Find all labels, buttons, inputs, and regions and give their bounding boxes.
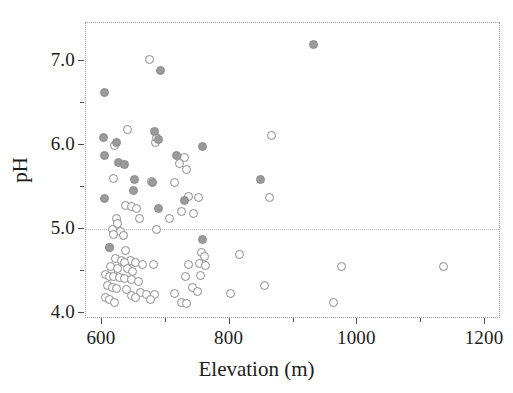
x-tick-label: 1200: [465, 327, 504, 349]
x-tick-label: 600: [86, 327, 115, 349]
x-tick-minor: [165, 318, 166, 322]
data-point-filled: [105, 243, 114, 252]
data-point-open: [196, 271, 205, 280]
data-point-open: [110, 298, 119, 307]
data-point-filled: [148, 178, 157, 187]
data-point-filled: [180, 196, 189, 205]
data-point-filled: [154, 204, 163, 213]
y-axis-title: pH: [8, 157, 33, 183]
data-point-open: [135, 214, 144, 223]
data-point-filled: [198, 235, 207, 244]
data-point-filled: [154, 135, 163, 144]
data-point-open: [235, 250, 244, 259]
y-tick-minor: [80, 186, 84, 187]
data-point-filled: [100, 151, 109, 160]
x-tick-minor: [293, 318, 294, 322]
y-tick-major: [78, 144, 84, 145]
data-point-open: [265, 193, 274, 202]
data-point-open: [132, 204, 141, 213]
data-point-open: [109, 174, 118, 183]
data-point-open: [123, 125, 132, 134]
data-point-filled: [156, 66, 165, 75]
data-point-filled: [172, 151, 181, 160]
data-point-open: [131, 293, 140, 302]
data-point-filled: [100, 88, 109, 97]
data-point-open: [329, 298, 338, 307]
data-point-open: [119, 231, 128, 240]
y-tick-minor: [80, 270, 84, 271]
data-point-open: [112, 284, 121, 293]
data-point-filled: [99, 133, 108, 142]
y-tick-minor: [80, 102, 84, 103]
data-point-open: [134, 277, 143, 286]
y-tick-label: 5.0: [37, 217, 75, 239]
y-tick-label: 4.0: [37, 301, 75, 323]
x-tick-minor: [420, 318, 421, 322]
data-point-open: [138, 260, 147, 269]
data-point-open: [194, 193, 203, 202]
data-point-filled: [256, 175, 265, 184]
data-point-open: [182, 165, 191, 174]
data-point-open: [337, 262, 346, 271]
data-point-open: [177, 207, 186, 216]
data-point-open: [170, 289, 179, 298]
data-point-open: [267, 131, 276, 140]
y-tick-label: 6.0: [37, 133, 75, 155]
data-point-open: [109, 230, 118, 239]
x-tick-label: 800: [214, 327, 243, 349]
data-point-open: [182, 299, 191, 308]
data-point-open: [165, 214, 174, 223]
plot-area: [85, 22, 500, 318]
data-point-open: [152, 225, 161, 234]
scatter-plot-figure: 600800100012004.05.06.07.0 Elevation (m)…: [0, 0, 513, 393]
data-point-filled: [112, 138, 121, 147]
x-tick-label: 1000: [337, 327, 376, 349]
data-point-open: [146, 295, 155, 304]
data-point-open: [189, 209, 198, 218]
x-tick-major: [356, 318, 357, 324]
data-point-filled: [130, 175, 139, 184]
data-point-filled: [309, 40, 318, 49]
data-point-open: [184, 260, 193, 269]
y-tick-major: [78, 228, 84, 229]
x-axis-title: Elevation (m): [0, 357, 513, 382]
data-point-filled: [129, 186, 138, 195]
data-point-filled: [120, 160, 129, 169]
x-tick-major: [484, 318, 485, 324]
y-tick-major: [78, 60, 84, 61]
reference-line-ph5: [86, 229, 499, 230]
data-point-open: [193, 287, 202, 296]
data-point-open: [145, 55, 154, 64]
data-point-filled: [100, 194, 109, 203]
data-point-open: [149, 260, 158, 269]
y-tick-label: 7.0: [37, 49, 75, 71]
data-point-open: [201, 261, 210, 270]
data-point-open: [181, 272, 190, 281]
data-point-open: [226, 289, 235, 298]
data-point-open: [170, 178, 179, 187]
data-point-open: [121, 246, 130, 255]
data-point-open: [260, 281, 269, 290]
data-point-open: [439, 262, 448, 271]
y-tick-major: [78, 312, 84, 313]
x-tick-major: [101, 318, 102, 324]
data-point-filled: [198, 142, 207, 151]
x-tick-major: [229, 318, 230, 324]
